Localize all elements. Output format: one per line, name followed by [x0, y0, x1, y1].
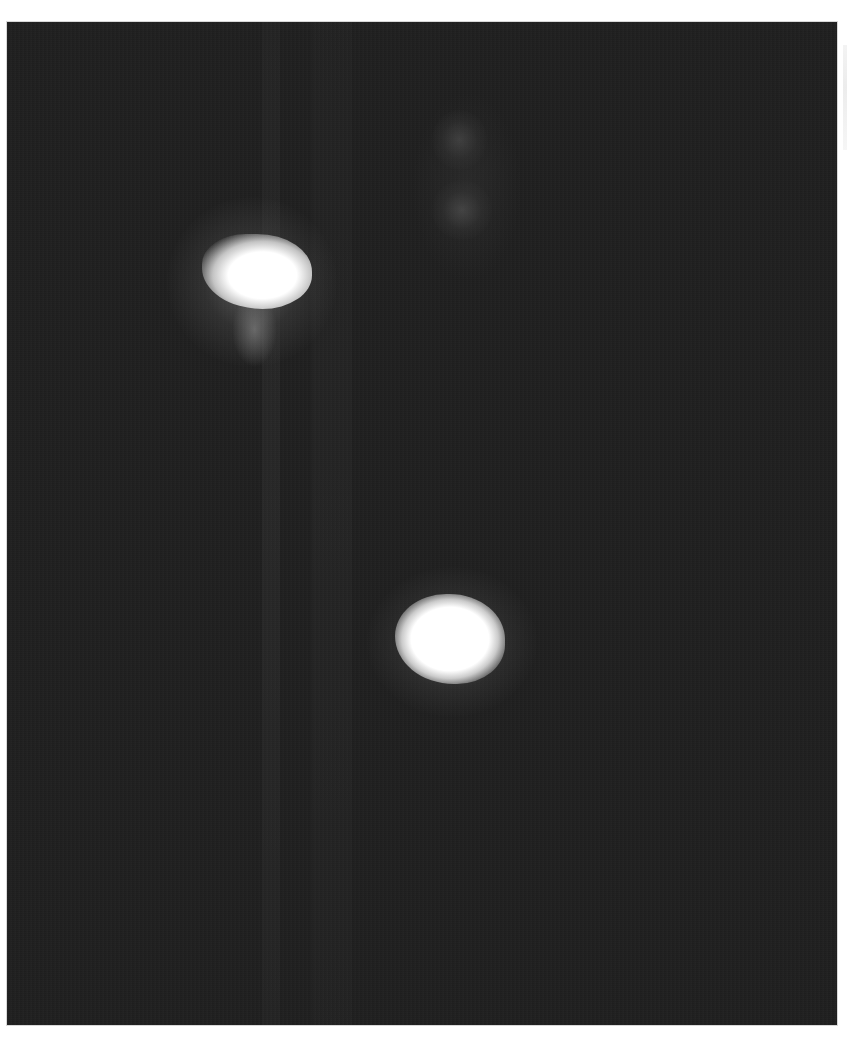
- faint-glow: [412, 92, 522, 282]
- microscopy-image: [7, 22, 837, 1025]
- edge-artifact: [843, 45, 847, 150]
- vertical-streak: [312, 22, 352, 1025]
- vertical-streak: [262, 22, 280, 1025]
